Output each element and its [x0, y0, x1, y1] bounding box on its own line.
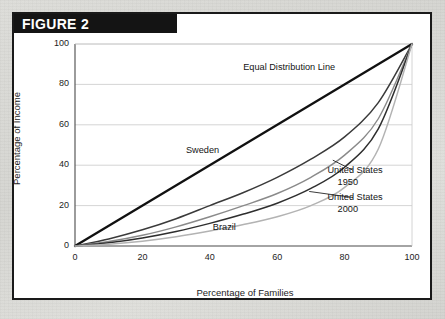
- figure-number-label: FIGURE 2: [22, 16, 89, 32]
- figure-number-banner: FIGURE 2: [14, 14, 177, 33]
- figure-frame: FIGURE 2: [12, 12, 432, 300]
